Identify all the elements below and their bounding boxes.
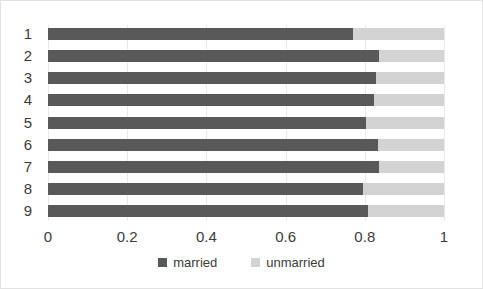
chart-legend: marriedunmarried xyxy=(1,256,482,269)
bar-segment-married[interactable] xyxy=(48,72,376,84)
bar-segment-unmarried[interactable] xyxy=(353,28,444,40)
bar-row[interactable] xyxy=(48,139,444,151)
y-tick-label: 8 xyxy=(1,183,41,195)
legend-item-unmarried[interactable]: unmarried xyxy=(251,256,325,269)
bar-segment-married[interactable] xyxy=(48,139,378,151)
bar-segment-unmarried[interactable] xyxy=(374,94,444,106)
x-tick-label: 0.8 xyxy=(354,227,375,247)
bars-layer xyxy=(48,25,444,221)
legend-label: unmarried xyxy=(266,256,325,269)
x-axis: 00.20.40.60.81 xyxy=(48,227,444,249)
y-tick-label: 4 xyxy=(1,94,41,106)
legend-label: married xyxy=(173,256,217,269)
bar-segment-married[interactable] xyxy=(48,28,353,40)
bar-segment-unmarried[interactable] xyxy=(376,72,444,84)
stacked-bar-chart: 123456789 00.20.40.60.81 marriedunmarrie… xyxy=(0,0,483,289)
bar-row[interactable] xyxy=(48,161,444,173)
y-tick-label: 7 xyxy=(1,161,41,173)
bar-segment-married[interactable] xyxy=(48,205,368,217)
gridline-1 xyxy=(444,25,445,221)
bar-row[interactable] xyxy=(48,28,444,40)
x-tick-label: 0.2 xyxy=(117,227,138,247)
legend-swatch-icon xyxy=(158,258,167,267)
x-tick-label: 0.6 xyxy=(275,227,296,247)
x-tick-label: 0.4 xyxy=(196,227,217,247)
bar-segment-married[interactable] xyxy=(48,183,363,195)
y-tick-label: 3 xyxy=(1,72,41,84)
bar-segment-unmarried[interactable] xyxy=(368,205,444,217)
x-tick-label: 1 xyxy=(440,227,448,247)
y-tick-label: 9 xyxy=(1,205,41,217)
bar-segment-married[interactable] xyxy=(48,50,379,62)
legend-swatch-icon xyxy=(251,258,260,267)
bar-segment-unmarried[interactable] xyxy=(363,183,444,195)
bar-segment-unmarried[interactable] xyxy=(366,117,444,129)
bar-row[interactable] xyxy=(48,117,444,129)
bar-segment-married[interactable] xyxy=(48,94,374,106)
y-tick-label: 2 xyxy=(1,50,41,62)
bar-segment-unmarried[interactable] xyxy=(379,50,444,62)
bar-segment-unmarried[interactable] xyxy=(379,161,444,173)
legend-item-married[interactable]: married xyxy=(158,256,217,269)
bar-segment-unmarried[interactable] xyxy=(378,139,444,151)
bar-row[interactable] xyxy=(48,50,444,62)
y-tick-label: 1 xyxy=(1,28,41,40)
y-axis: 123456789 xyxy=(1,25,41,221)
y-tick-label: 5 xyxy=(1,117,41,129)
y-tick-label: 6 xyxy=(1,139,41,151)
bar-row[interactable] xyxy=(48,72,444,84)
plot-area xyxy=(48,25,444,221)
x-tick-label: 0 xyxy=(44,227,52,247)
bar-segment-married[interactable] xyxy=(48,117,366,129)
bar-row[interactable] xyxy=(48,205,444,217)
bar-row[interactable] xyxy=(48,183,444,195)
bar-row[interactable] xyxy=(48,94,444,106)
bar-segment-married[interactable] xyxy=(48,161,379,173)
